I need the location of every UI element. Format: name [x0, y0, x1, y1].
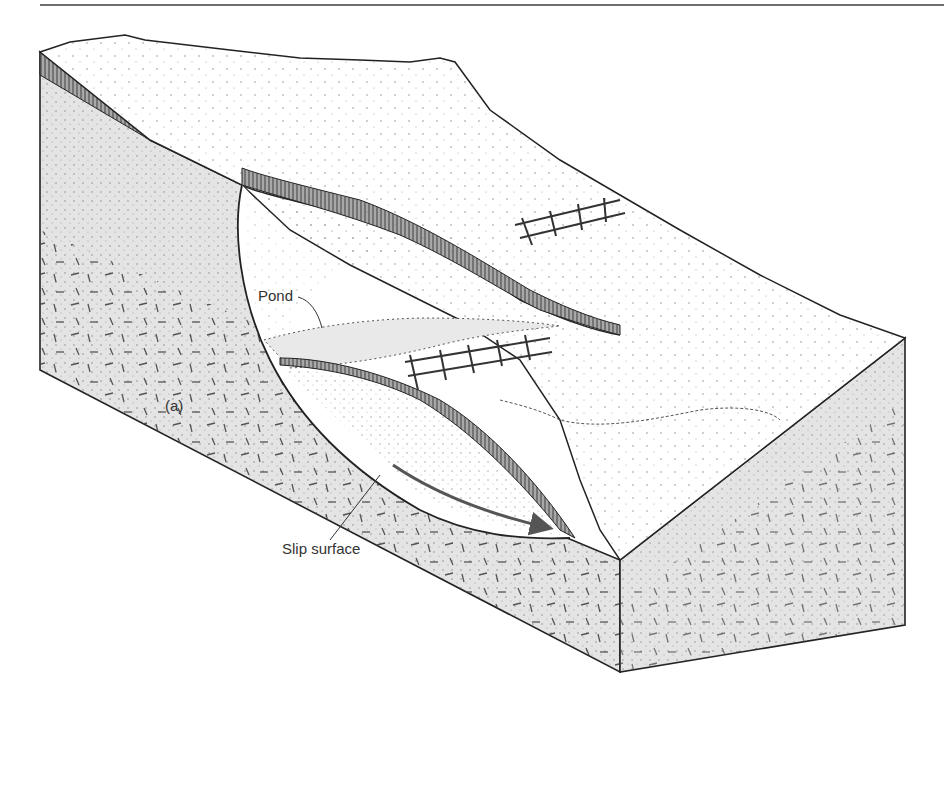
panel-label: (a): [165, 397, 183, 414]
slip-surface-label: Slip surface: [282, 540, 360, 557]
slump-block-diagram: [0, 0, 944, 796]
pond-label: Pond: [258, 287, 293, 304]
